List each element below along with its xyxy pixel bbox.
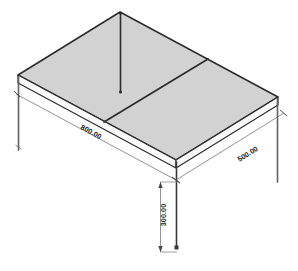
height-arrow-top [158,182,162,188]
height-dimension: 300.00 [158,182,177,252]
back-column-base-node [119,91,122,94]
height-arrow-bottom [158,246,162,252]
slab-top-outline [18,12,278,160]
slab-top-surface [18,12,278,160]
structural-isometric-svg: 800.00 500.00 300.00 [0,0,298,271]
back-column-top-node [119,11,122,14]
height-dimension-label: 300.00 [159,204,168,227]
width-dimension-label: 500.00 [236,144,260,164]
isometric-drawing-canvas: 800.00 500.00 300.00 [0,0,298,271]
front-column-base-node [175,246,179,250]
